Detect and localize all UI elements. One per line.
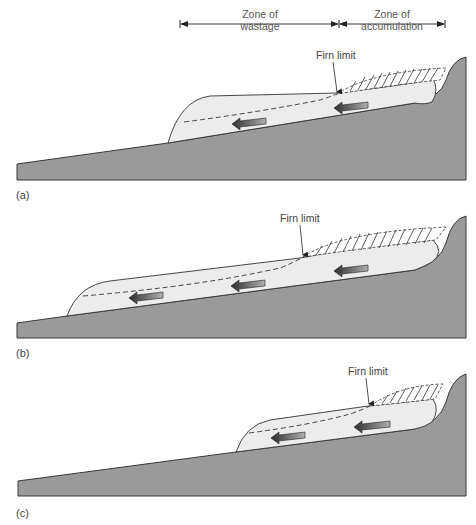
panel-c bbox=[18, 374, 466, 496]
firn-limit-label-c: Firn limit bbox=[348, 365, 388, 377]
firn-pointer-b bbox=[300, 225, 303, 255]
firn-limit-label-a: Firn limit bbox=[316, 49, 356, 61]
zone-accumulation-line2: accumulation bbox=[352, 20, 432, 32]
firn-pointer-a bbox=[333, 62, 337, 92]
zone-accumulation-line1: Zone of bbox=[352, 8, 432, 20]
panel-label-a: (a) bbox=[16, 189, 29, 201]
firn-pointer-c bbox=[366, 378, 369, 404]
diagram-svg bbox=[0, 0, 476, 525]
panel-a bbox=[17, 57, 466, 180]
zone-wastage-line2: wastage bbox=[225, 20, 295, 32]
zone-accumulation-label: Zone of accumulation bbox=[352, 8, 432, 32]
panel-b bbox=[17, 216, 466, 338]
zone-wastage-label: Zone of wastage bbox=[225, 8, 295, 32]
panel-label-c: (c) bbox=[16, 507, 29, 519]
firn-limit-label-b: Firn limit bbox=[280, 212, 320, 224]
panel-label-b: (b) bbox=[16, 347, 29, 359]
zone-wastage-line1: Zone of bbox=[225, 8, 295, 20]
glacier-diagram: Zone of wastage Zone of accumulation Fir… bbox=[0, 0, 476, 525]
